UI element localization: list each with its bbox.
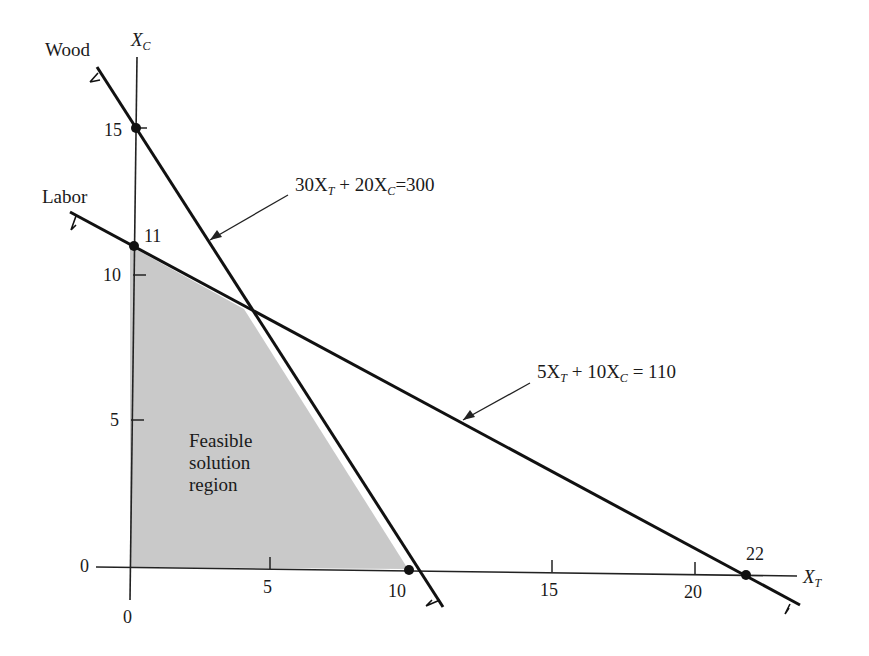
- x-tick-label-5: 5: [263, 578, 272, 596]
- feasible-region: [130, 246, 408, 569]
- labor-eq-arrowhead-icon: [463, 410, 475, 420]
- labor-direction-arrow-icon-bottom: [785, 604, 790, 614]
- point-label-11: 11: [144, 227, 161, 245]
- y-tick-label-0: 0: [80, 557, 89, 575]
- point-label-15: 15: [104, 121, 122, 139]
- point-label-22: 22: [746, 545, 764, 563]
- labor-direction-arrow-icon: [71, 216, 76, 230]
- feasible-region-label: Feasible solution region: [189, 430, 252, 496]
- wood-direction-arrow-icon: [90, 73, 100, 82]
- point-0-11: [129, 241, 139, 251]
- region-label-line2: solution: [189, 452, 252, 474]
- region-label-line3: region: [189, 474, 252, 496]
- wood-eq-pointer: [210, 195, 288, 240]
- chart-canvas: [0, 0, 869, 656]
- y-axis-title: XC: [131, 30, 151, 52]
- point-10-0: [404, 565, 414, 575]
- region-label-line1: Feasible: [189, 430, 252, 452]
- labor-equation: 5XT + 10XC = 110: [537, 362, 676, 384]
- labor-label: Labor: [42, 187, 87, 206]
- x-tick-label-15: 15: [540, 581, 558, 599]
- x-tick-label-10: 10: [388, 582, 406, 600]
- wood-direction-arrow-icon-bottom: [426, 600, 440, 606]
- y-tick-label-5: 5: [110, 411, 119, 429]
- wood-equation: 30XT + 20XC=300: [295, 175, 435, 197]
- point-22-0: [741, 570, 751, 580]
- x-tick-label-0: 0: [123, 608, 132, 626]
- y-tick-label-10: 10: [103, 266, 121, 284]
- x-tick-label-20: 20: [684, 583, 702, 601]
- x-axis-title: XT: [803, 567, 821, 589]
- wood-label: Wood: [45, 40, 90, 59]
- x-axis: [96, 567, 797, 576]
- point-0-15: [131, 123, 141, 133]
- wood-eq-arrowhead-icon: [210, 230, 222, 240]
